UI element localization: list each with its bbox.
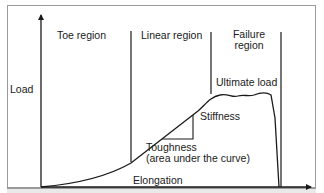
x-axis-label: Elongation [133,175,183,186]
linear-region-label: Linear region [141,30,202,41]
y-axis-label: Load [10,84,33,95]
failure-region-label-line2: region [226,40,272,51]
ultimate-load-label: Ultimate load [216,77,277,88]
toughness-label-line2: (area under the curve) [146,153,250,164]
stiffness-label: Stiffness [200,111,240,122]
failure-region-label: Failure region [226,29,272,51]
toe-region-label: Toe region [57,30,106,41]
